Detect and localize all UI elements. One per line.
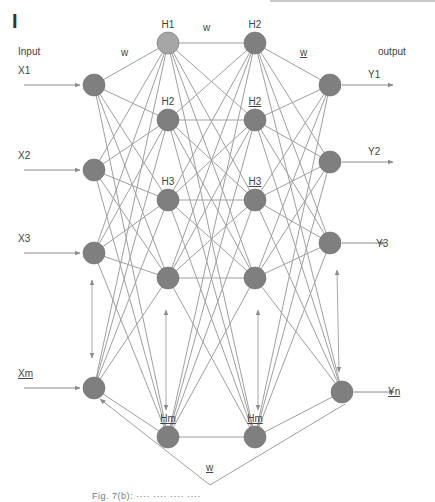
connection-edge	[255, 392, 342, 437]
node-label: H2	[249, 19, 262, 30]
connection-edge	[94, 43, 168, 85]
input-node-x1	[83, 74, 105, 96]
feedback-loop	[100, 399, 345, 485]
input-node-x3	[83, 242, 105, 264]
connection-edges	[94, 43, 342, 437]
connection-edge	[94, 85, 168, 278]
node-label: X1	[18, 65, 31, 76]
node-label: X2	[18, 150, 31, 161]
input-label: Input	[18, 46, 40, 57]
node-label: H2	[249, 96, 262, 107]
output-node-y2	[319, 151, 341, 173]
output-label: output	[378, 46, 406, 57]
node-label: Yn	[388, 386, 400, 397]
weight-label-input-hidden: w	[120, 47, 129, 58]
connection-edge	[94, 200, 168, 253]
node-label: X3	[18, 233, 31, 244]
node-label: H1	[162, 19, 175, 30]
node-label: Y3	[376, 238, 389, 249]
weight-label-hidden-hidden: w	[202, 22, 211, 33]
node-label: Hm	[247, 413, 263, 424]
node-label: Hm	[160, 413, 176, 424]
hidden2-node-hm	[244, 426, 266, 448]
hidden1-node-h2	[157, 109, 179, 131]
connection-edge	[94, 43, 168, 388]
connection-edge	[94, 253, 168, 437]
connection-edge	[94, 120, 168, 170]
connection-edge	[94, 170, 168, 437]
hidden1-node-hm	[157, 426, 179, 448]
hidden1-node-h1	[157, 32, 179, 54]
connection-edge	[255, 43, 330, 85]
input-node-xm	[83, 377, 105, 399]
network-nodes	[83, 32, 353, 448]
node-label: H3	[162, 176, 175, 187]
node-label: Xm	[18, 368, 33, 379]
output-node-y1	[319, 74, 341, 96]
figure-caption: Fig. 7(b): ···· ···· ···· ····	[92, 491, 201, 501]
hidden1-node-h3	[157, 189, 179, 211]
connection-edge	[94, 43, 168, 170]
panel-label: I	[12, 10, 18, 32]
hidden2-node-h2	[244, 109, 266, 131]
output-node-y3	[319, 232, 341, 254]
hidden2-node-h4	[244, 267, 266, 289]
hidden1-node-h4	[157, 267, 179, 289]
input-node-x2	[83, 159, 105, 181]
node-label: Y2	[368, 146, 381, 157]
connection-edge	[255, 200, 342, 392]
weight-label-feedback: w	[205, 462, 214, 473]
connection-edge	[94, 170, 168, 200]
input-arrows	[24, 85, 80, 388]
connection-edge	[94, 43, 168, 253]
neural-network-diagram: I Input output w w w w X1X2X3XmH1H2H3HmH…	[0, 0, 435, 502]
weight-label-hidden-output: w	[299, 47, 308, 58]
hidden2-node-h3	[244, 189, 266, 211]
node-label: H2	[162, 96, 175, 107]
output-node-yn	[331, 381, 353, 403]
connection-edge	[255, 85, 330, 278]
hidden2-node-h2	[244, 32, 266, 54]
node-label: H3	[249, 176, 262, 187]
node-label: Y1	[368, 69, 381, 80]
connection-edge	[94, 253, 168, 278]
